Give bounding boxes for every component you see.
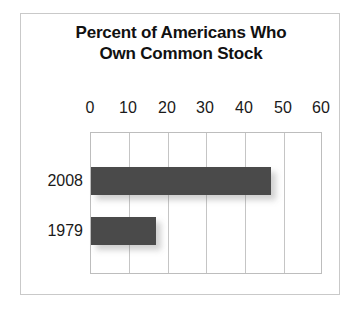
y-axis-category-labels: 2008 1979 <box>21 132 87 274</box>
x-tick-label-50: 50 <box>265 98 301 117</box>
bar-1979 <box>91 217 156 245</box>
x-tick-label-0: 0 <box>72 98 108 117</box>
x-tick-label-60: 60 <box>303 98 339 117</box>
gridline-50 <box>284 133 285 273</box>
gridline-40 <box>245 133 246 273</box>
x-tick-label-40: 40 <box>226 98 262 117</box>
gridline-20 <box>168 133 169 273</box>
x-tick-label-10: 10 <box>110 98 146 117</box>
chart-title-line-1: Percent of Americans Who <box>21 22 341 43</box>
x-tick-label-30: 30 <box>187 98 223 117</box>
gridline-10 <box>129 133 130 273</box>
plot-area <box>90 132 322 274</box>
x-tick-label-20: 20 <box>149 98 185 117</box>
chart-figure: Percent of Americans Who Own Common Stoc… <box>20 13 340 295</box>
gridline-30 <box>206 133 207 273</box>
x-axis-tick-labels: 0 10 20 30 40 50 60 <box>90 98 322 118</box>
chart-title: Percent of Americans Who Own Common Stoc… <box>21 22 341 64</box>
bar-2008 <box>91 167 271 195</box>
chart-title-line-2: Own Common Stock <box>21 43 341 64</box>
y-label-2008: 2008 <box>21 171 83 190</box>
y-label-1979: 1979 <box>21 221 83 240</box>
